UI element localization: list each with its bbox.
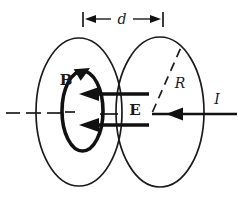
- magnetic-field-label: B: [60, 71, 73, 89]
- current-label: I: [213, 91, 220, 107]
- current-arrowhead-icon: [166, 108, 183, 121]
- dimension-left-arrowhead-icon: [85, 15, 96, 23]
- left-plate-outline: [36, 38, 122, 186]
- plate-radius-label: R: [174, 75, 186, 91]
- electric-field-label: E: [129, 101, 140, 119]
- electric-field-arrow-lower: [79, 118, 149, 132]
- plate-separation-label: d: [118, 11, 127, 27]
- current-arrow: [152, 108, 237, 121]
- capacitor-displacement-current-figure: d B E R I: [0, 0, 238, 197]
- figure-canvas: d B E R I: [0, 0, 238, 197]
- electric-field-arrow-upper: [79, 87, 149, 101]
- dimension-right-arrowhead-icon: [150, 15, 161, 23]
- e-arrowhead-icon: [79, 87, 99, 101]
- e-arrowhead-icon: [79, 118, 99, 132]
